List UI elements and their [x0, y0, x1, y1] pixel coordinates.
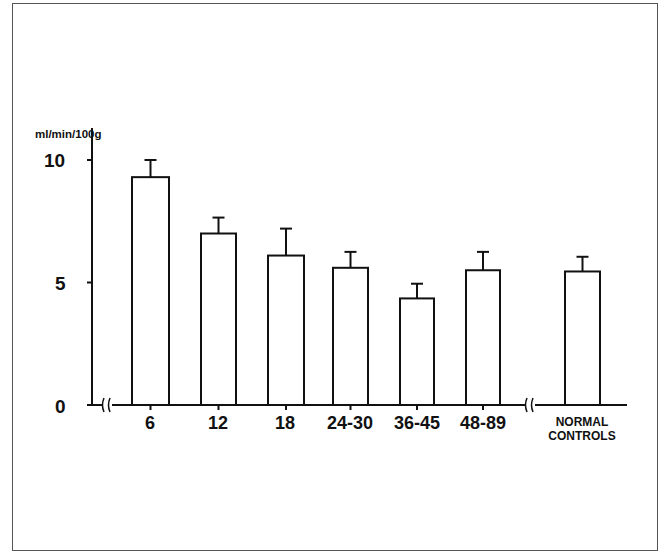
bar-chart [0, 0, 665, 558]
bar-6 [565, 271, 600, 405]
y-tick-5: 5 [55, 273, 66, 295]
y-tick-10: 10 [44, 150, 65, 172]
x-label-normal-line2: CONTROLS [537, 429, 627, 443]
x-label-48-89: 48-89 [438, 413, 528, 434]
bar-4 [400, 298, 434, 405]
bar-1 [201, 234, 236, 406]
y-tick-0: 0 [55, 396, 66, 418]
bar-3 [333, 268, 368, 405]
bar-5 [466, 270, 500, 405]
x-label-normal-line1: NORMAL [537, 415, 627, 429]
axis-break-icon [526, 398, 534, 412]
bar-2 [268, 256, 304, 405]
y-axis-label: ml/min/100g [35, 128, 101, 140]
axis-break-icon [103, 398, 111, 412]
bar-0 [132, 177, 169, 405]
x-label-normal-controls: NORMAL CONTROLS [537, 415, 627, 443]
